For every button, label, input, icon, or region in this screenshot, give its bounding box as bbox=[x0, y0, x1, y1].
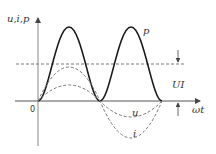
diagram-canvas: u,i,p ωt 0 p u i UI bbox=[0, 0, 216, 154]
x-axis-label: ωt bbox=[192, 104, 205, 115]
curve-label-i: i bbox=[133, 128, 136, 139]
curve-label-u: u bbox=[132, 107, 138, 118]
average-label-ui: UI bbox=[172, 79, 185, 90]
curve-label-p: p bbox=[143, 25, 150, 36]
current-curve-i bbox=[38, 67, 162, 138]
origin-label: 0 bbox=[30, 105, 35, 114]
y-axis-label: u,i,p bbox=[7, 13, 30, 24]
power-waveform-diagram: u,i,p ωt 0 p u i UI bbox=[0, 0, 216, 154]
